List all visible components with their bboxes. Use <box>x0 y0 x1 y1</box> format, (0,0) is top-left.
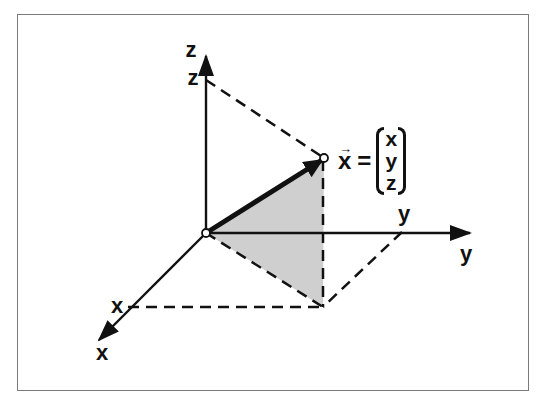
vector-tip-point <box>320 154 328 162</box>
x-tick-label: x <box>111 295 123 317</box>
diagram-graphics <box>0 0 543 407</box>
vector-components: x y z <box>385 128 397 194</box>
y-axis-label: y <box>460 243 472 265</box>
vector-equation: → x = x y z <box>338 124 406 198</box>
dashed-line-z-to-tip <box>206 80 324 158</box>
y-tick-label: y <box>398 203 410 225</box>
coordinate-diagram: z z y y x x → x = x y z <box>0 0 543 407</box>
left-parenthesis <box>376 127 384 195</box>
vector-arrow-accent: → <box>339 142 352 155</box>
vector-symbol: → x <box>338 149 351 173</box>
origin-point <box>202 229 210 237</box>
x-axis-label: x <box>96 342 108 364</box>
component-x: x <box>385 128 397 150</box>
z-tick-label: z <box>188 67 199 89</box>
component-z: z <box>386 172 397 194</box>
right-parenthesis <box>398 127 406 195</box>
x-axis <box>99 233 206 340</box>
dashed-line-y-to-base <box>323 232 402 307</box>
component-y: y <box>385 150 397 172</box>
equals-sign: = <box>357 147 371 175</box>
z-axis-label: z <box>186 39 197 61</box>
